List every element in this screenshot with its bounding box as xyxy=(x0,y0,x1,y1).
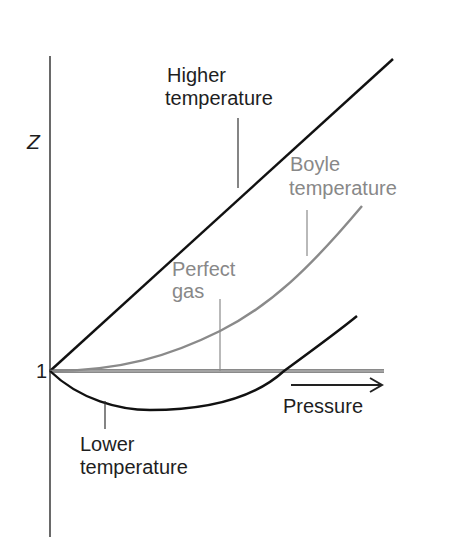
x-axis-label: Pressure xyxy=(283,395,363,418)
lower-temperature-label-line1: Lower xyxy=(80,433,134,456)
higher-temperature-label-line2: temperature xyxy=(165,87,273,110)
lower-temperature-label-line2: temperature xyxy=(80,456,188,479)
perfect-gas-label-line2: gas xyxy=(172,280,204,303)
higher-temperature-label-line1: Higher xyxy=(167,64,226,87)
perfect-gas-label-line1: Perfect xyxy=(172,258,235,281)
compression-factor-diagram: Z 1 Pressure Higher temperature Boyle te… xyxy=(0,0,450,557)
boyle-temperature-label-line1: Boyle xyxy=(290,153,340,176)
boyle-temperature-curve xyxy=(50,206,362,371)
y-axis-label: Z xyxy=(27,130,40,153)
boyle-temperature-label-line2: temperature xyxy=(289,177,397,200)
y-tick-one: 1 xyxy=(36,360,47,383)
